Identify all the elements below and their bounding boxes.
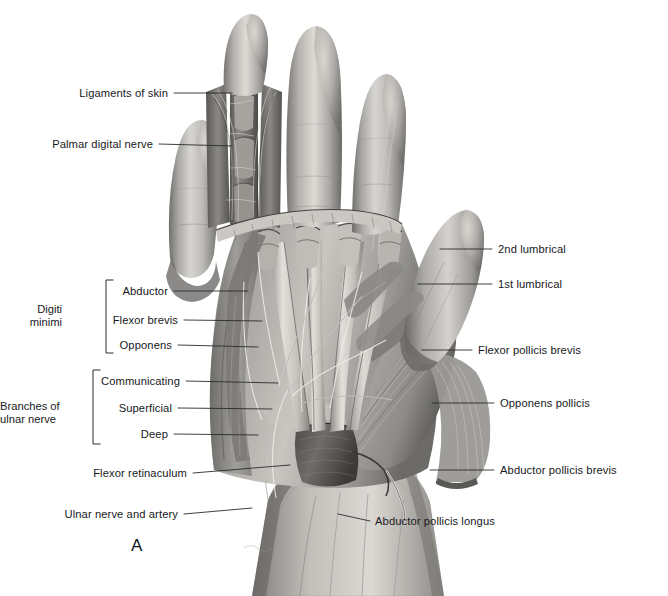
leader-ulnar-nerve-artery: [184, 508, 252, 514]
label-ulnar-nerve-artery: Ulnar nerve and artery: [0, 508, 178, 520]
label-abductor-pollicis-longus: Abductor pollicis longus: [375, 515, 495, 527]
group-label-digiti-minimi: Digitiminimi: [0, 303, 62, 329]
label-2nd-lumbrical: 2nd lumbrical: [498, 243, 566, 255]
dissected-ring-finger: [206, 14, 282, 228]
group-brackets: [93, 280, 113, 444]
group-label-line: minimi: [0, 316, 62, 329]
group-label-line: Branches of: [0, 400, 30, 413]
label-opponens: Opponens: [0, 339, 172, 351]
label-deep: Deep: [0, 428, 168, 440]
label-opponens-pollicis: Opponens pollicis: [500, 397, 590, 409]
label-flexor-pollicis-brevis: Flexor pollicis brevis: [478, 344, 581, 356]
group-label-line: Digiti: [0, 303, 62, 316]
group-label-line: ulnar nerve: [0, 413, 30, 426]
label-abductor-pollicis-brevis: Abductor pollicis brevis: [500, 464, 617, 476]
label-flexor-retinaculum: Flexor retinaculum: [0, 467, 187, 479]
thumb: [400, 210, 484, 371]
label-palmar-digital-nerve: Palmar digital nerve: [0, 138, 153, 150]
label-1st-lumbrical: 1st lumbrical: [498, 278, 562, 290]
group-label-branches-of-ulnar-nerve: Branches ofulnar nerve: [0, 400, 30, 426]
label-ligaments-of-skin: Ligaments of skin: [0, 87, 168, 99]
label-abductor: Abductor: [0, 285, 168, 297]
figure-letter: A: [131, 536, 142, 556]
label-communicating: Communicating: [0, 375, 180, 387]
